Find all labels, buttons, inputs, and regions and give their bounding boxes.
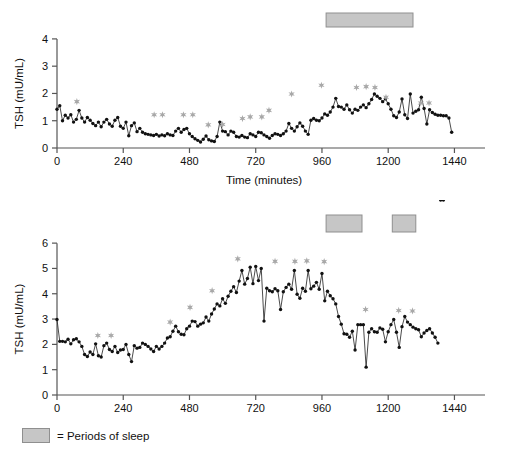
x-tick-label: 480	[180, 155, 198, 167]
data-point	[226, 295, 229, 298]
data-point	[348, 108, 351, 111]
data-point	[207, 319, 210, 322]
data-point	[353, 348, 356, 351]
data-point	[130, 124, 133, 127]
data-point	[345, 333, 348, 336]
data-point	[411, 111, 414, 114]
significance-star	[396, 307, 402, 314]
data-point	[221, 297, 224, 300]
data-point	[301, 286, 304, 289]
data-point	[334, 302, 337, 305]
data-point	[298, 121, 301, 124]
data-point	[240, 269, 243, 272]
data-point	[273, 287, 276, 290]
data-point	[213, 140, 216, 143]
data-point	[287, 122, 290, 125]
significance-star	[266, 107, 272, 114]
data-point	[276, 289, 279, 292]
data-point	[417, 328, 420, 331]
data-point	[122, 348, 125, 351]
significance-star	[318, 82, 324, 89]
data-point	[284, 129, 287, 132]
data-point	[260, 267, 263, 270]
data-point	[232, 130, 235, 133]
significance-star	[95, 332, 101, 339]
data-point	[326, 114, 329, 117]
data-point	[99, 125, 102, 128]
data-point	[243, 282, 246, 285]
data-point	[108, 122, 111, 125]
data-point	[64, 340, 67, 343]
x-tick-label: 0	[54, 402, 60, 414]
data-point	[108, 348, 111, 351]
data-point	[345, 103, 348, 106]
data-point	[127, 353, 130, 356]
data-point	[378, 97, 381, 100]
data-point	[202, 321, 205, 324]
significance-star	[409, 307, 415, 314]
data-point	[318, 287, 321, 290]
y-tick-label: 1	[42, 115, 48, 127]
data-point	[364, 365, 367, 368]
y-tick-label: 0	[42, 389, 48, 401]
data-point	[290, 287, 293, 290]
data-point	[337, 315, 340, 318]
data-point	[420, 96, 423, 99]
data-point	[249, 265, 252, 268]
data-point	[309, 287, 312, 290]
data-point	[111, 350, 114, 353]
significance-star	[209, 287, 215, 294]
data-point	[185, 327, 188, 330]
data-point	[329, 294, 332, 297]
significance-star	[151, 111, 157, 118]
data-point	[130, 360, 133, 363]
legend: = Periods of sleep	[22, 428, 149, 443]
data-point	[370, 98, 373, 101]
x-tick-label: 960	[313, 402, 331, 414]
data-point	[235, 291, 238, 294]
data-point	[86, 355, 89, 358]
x-tick-label: 1440	[442, 402, 466, 414]
data-point	[384, 340, 387, 343]
data-point	[152, 350, 155, 353]
significance-star	[167, 319, 173, 326]
data-point	[86, 116, 89, 119]
data-point	[157, 347, 160, 350]
data-point	[111, 124, 114, 127]
y-tick-label: 3	[42, 313, 48, 325]
sleep-period-bar	[326, 13, 413, 27]
data-point	[348, 336, 351, 339]
data-point	[64, 114, 67, 117]
data-point	[387, 330, 390, 333]
data-point	[204, 315, 207, 318]
data-point	[75, 118, 78, 121]
data-point	[133, 344, 136, 347]
data-point	[254, 265, 257, 268]
data-point	[351, 330, 354, 333]
data-point	[323, 299, 326, 302]
data-point	[356, 109, 359, 112]
y-tick-label: 2	[42, 338, 48, 350]
data-point	[262, 319, 265, 322]
data-point	[400, 97, 403, 100]
x-axis-title: Time (minutes)	[226, 174, 302, 186]
data-point	[149, 347, 152, 350]
significance-star	[272, 258, 278, 265]
data-point	[320, 272, 323, 275]
data-point	[447, 116, 450, 119]
data-point	[224, 130, 227, 133]
data-point	[375, 331, 378, 334]
significance-star	[74, 98, 80, 105]
data-point	[364, 106, 367, 109]
data-point	[246, 277, 249, 280]
x-tick-label: 720	[247, 155, 265, 167]
data-point	[138, 346, 141, 349]
y-tick-label: 4	[42, 288, 48, 300]
data-point	[88, 350, 91, 353]
data-point	[398, 346, 401, 349]
data-point	[257, 279, 260, 282]
data-point	[83, 120, 86, 123]
data-point	[133, 121, 136, 124]
data-point	[359, 105, 362, 108]
data-point	[320, 116, 323, 119]
